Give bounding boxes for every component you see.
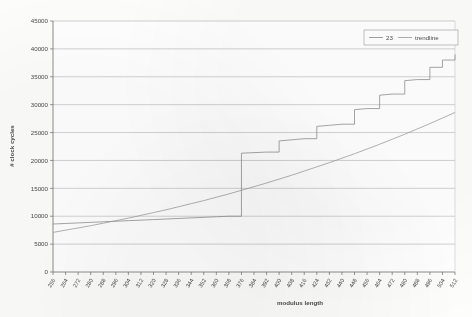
x-axis-title: modulus length [277, 299, 323, 306]
y-tick-label: 20000 [31, 157, 49, 164]
y-tick-label: 15000 [31, 185, 49, 192]
y-tick-label: 5000 [34, 240, 48, 247]
y-tick-label: 25000 [31, 129, 49, 136]
y-tick-label: 30000 [31, 101, 49, 108]
chart-figure: 0500010000150002000025000300003500040000… [0, 0, 472, 317]
y-tick-label: 10000 [31, 212, 49, 219]
y-tick-label: 0 [45, 268, 49, 275]
legend-label-trendline: trendline [415, 34, 439, 41]
y-tick-label: 35000 [31, 73, 49, 80]
y-axis-title: # clock cycles [8, 125, 15, 167]
legend: 23 trendline [364, 30, 458, 45]
legend-label-23: 23 [386, 34, 393, 41]
chart-svg: 0500010000150002000025000300003500040000… [0, 0, 472, 317]
y-tick-label: 40000 [31, 45, 49, 52]
y-tick-label: 45000 [31, 17, 49, 24]
plot-area [53, 21, 455, 272]
